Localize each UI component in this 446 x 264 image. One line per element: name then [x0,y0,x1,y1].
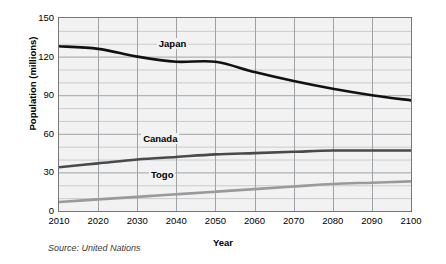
chart-figure: 1501209060300 JapanCanadaTogo 2010202020… [0,0,446,264]
x-axis-tick-labels: 2010202020302040205020602070208020902100 [0,0,446,264]
x-tick-label: 2100 [386,215,436,226]
source-note: Source: United Nations [48,243,141,253]
y-axis-title: Population (millions) [27,0,38,174]
